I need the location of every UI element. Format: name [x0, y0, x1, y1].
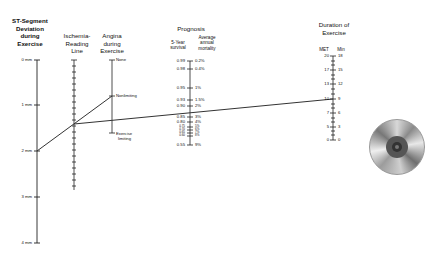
survival-label: 0.93 [166, 97, 185, 102]
survival-label: 0.60 [166, 133, 185, 138]
st-header-line: during [2, 32, 58, 40]
duration-header-line: Exercise [312, 29, 356, 37]
mortality-label: 0.4% [195, 66, 205, 71]
cd-center [395, 145, 399, 149]
mortality-label: 2% [195, 103, 201, 108]
duration-header-line: Duration of [312, 21, 356, 29]
st-label: 3 mm [4, 194, 32, 199]
min-header: Min [335, 47, 347, 52]
ischemia-header-line: Ischemia- [58, 32, 96, 40]
duration-header: Duration of Exercise [312, 21, 356, 36]
min-label: 3 [338, 124, 340, 129]
st-label: 1 mm [4, 102, 32, 107]
st-header-line: Exercise [2, 40, 58, 48]
mortality-label: 0.2% [195, 58, 205, 63]
mortality-header: Average annual mortality [192, 35, 222, 51]
min-label: 9 [338, 96, 340, 101]
mortality-header-line: mortality [192, 46, 222, 51]
min-label: 0 [338, 137, 340, 142]
min-label: 6 [338, 110, 340, 115]
met-label: 13 [316, 81, 329, 86]
met-label: 17 [316, 67, 329, 72]
st-label: 4 mm [4, 240, 32, 245]
met-label: 0 [316, 137, 329, 142]
angina-label: limiting [118, 136, 131, 141]
angina-header-line: during [96, 40, 128, 48]
st-header: ST-Segment Deviation during Exercise [2, 17, 58, 47]
met-label: 7 [316, 110, 329, 115]
angina-header: Angina during Exercise [96, 32, 128, 55]
cd-disc-icon [369, 119, 425, 175]
prognosis-axis [187, 61, 193, 145]
ischemia-header: Ischemia- Reading Line [58, 32, 96, 55]
survival-label: 0.90 [166, 103, 185, 108]
met-label: 5 [316, 124, 329, 129]
survival-label: 0.99 [166, 58, 185, 63]
st-header-line: Deviation [2, 25, 58, 33]
mortality-label: 1% [195, 85, 201, 90]
mortality-label: 1.5% [195, 97, 205, 102]
st-header-line: ST-Segment [2, 17, 58, 25]
mortality-label: 8% [195, 133, 199, 138]
min-label: 12 [338, 81, 343, 86]
ischemia-header-line: Reading [58, 40, 96, 48]
st-axis [34, 60, 40, 243]
met-label: 10 [316, 96, 329, 101]
min-label: 18 [338, 53, 343, 58]
survival-label: 0.95 [166, 85, 185, 90]
angina-label: Nonlimiting [116, 93, 137, 98]
survival-label: 0.98 [166, 66, 185, 71]
survival-label: 0.55 [166, 142, 185, 147]
min-label: 15 [338, 67, 343, 72]
st-label: 0 mm [4, 57, 32, 62]
met-label: 20 [316, 53, 329, 58]
angina-header-line: Angina [96, 32, 128, 40]
survival-header: 5-Year survival [166, 40, 190, 51]
mortality-label: 9% [195, 142, 201, 147]
ischemia-header-line: Line [58, 47, 96, 55]
angina-label: None [116, 57, 126, 62]
survival-header-line: survival [166, 45, 190, 50]
st-label: 2 mm [4, 148, 32, 153]
met-header: MET [317, 47, 331, 52]
duration-axis [330, 56, 336, 140]
angina-header-line: Exercise [96, 47, 128, 55]
reading-line-ischemia-to-duration [74, 99, 333, 124]
prognosis-header: Prognosis [170, 25, 212, 33]
